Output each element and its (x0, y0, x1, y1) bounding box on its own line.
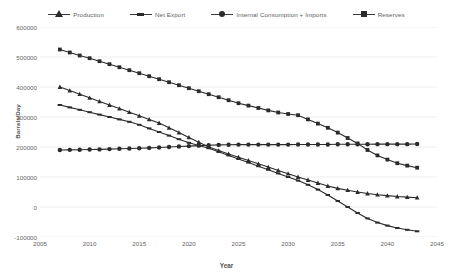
data-point (395, 161, 399, 165)
data-point (147, 74, 151, 78)
y-tick-label: 0 (34, 204, 37, 211)
data-point (236, 158, 240, 160)
data-point (127, 146, 131, 150)
y-axis-title: Barrels/Day (14, 92, 21, 152)
data-point (336, 131, 340, 135)
plot-area (40, 27, 437, 237)
data-point (167, 145, 171, 149)
data-point (415, 230, 419, 232)
data-point (286, 142, 290, 146)
series-line (60, 105, 417, 231)
data-point (316, 189, 320, 191)
data-point (385, 225, 389, 227)
data-point (247, 104, 251, 108)
x-tick-label: 2005 (33, 240, 47, 247)
data-point (197, 143, 201, 147)
data-point (345, 206, 349, 208)
legend-item-label: Net Export (155, 11, 185, 18)
data-point (167, 80, 171, 84)
data-point (207, 143, 211, 147)
data-point (326, 126, 330, 130)
legend-item-label: Production (73, 11, 104, 18)
legend-marker-icon (211, 10, 233, 19)
data-point (345, 142, 349, 146)
data-point (58, 148, 62, 152)
data-point (375, 222, 379, 224)
data-point (157, 145, 161, 149)
data-point (266, 109, 270, 113)
data-point (117, 147, 121, 151)
y-tick-label: 100000 (16, 174, 37, 181)
data-point (276, 142, 280, 146)
data-point (68, 106, 72, 108)
data-point (395, 142, 399, 146)
series-net-export (58, 104, 420, 232)
data-point (356, 142, 360, 146)
y-tick-label: 500000 (16, 54, 37, 61)
legend-item-internal-consumption-imports[interactable]: Internal Consumption + Imports (211, 10, 326, 19)
data-point (177, 144, 181, 148)
data-point (306, 142, 310, 146)
data-point (296, 180, 300, 182)
data-point (286, 112, 290, 116)
legend-item-label: Internal Consumption + Imports (236, 11, 326, 18)
legend-marker-icon (48, 10, 70, 19)
data-point (226, 154, 230, 156)
data-point (236, 142, 240, 146)
legend-marker-icon (353, 10, 375, 19)
data-point (97, 147, 101, 151)
data-point (78, 54, 82, 58)
data-point (365, 217, 369, 219)
data-point (107, 147, 111, 151)
data-point (107, 116, 111, 118)
data-point (405, 142, 409, 146)
data-point (256, 165, 260, 167)
data-point (237, 101, 241, 105)
data-point (316, 142, 320, 146)
data-point (336, 200, 340, 202)
data-point (207, 147, 211, 149)
series-line (60, 50, 417, 168)
x-tick-label: 2015 (132, 240, 146, 247)
legend-marker-icon (130, 10, 152, 19)
x-tick-label: 2020 (182, 240, 196, 247)
data-point (366, 148, 370, 152)
data-point (98, 59, 102, 63)
y-tick-label: 400000 (16, 84, 37, 91)
data-point (118, 65, 122, 69)
data-point (336, 142, 340, 146)
data-point (216, 143, 220, 147)
chart-svg (40, 27, 437, 237)
data-point (256, 106, 260, 110)
data-point (68, 148, 72, 152)
data-point (246, 142, 250, 146)
x-axis-title: Year (0, 262, 453, 269)
data-point (306, 184, 310, 186)
data-point (58, 104, 62, 106)
data-point (385, 142, 389, 146)
data-point (97, 114, 101, 116)
data-point (137, 71, 141, 75)
data-point (405, 229, 409, 231)
data-point (385, 158, 389, 162)
data-point (87, 111, 91, 113)
chart-legend: ProductionNet ExportInternal Consumption… (0, 6, 453, 22)
x-tick-label: 2010 (83, 240, 97, 247)
data-point (127, 121, 131, 123)
data-point (405, 164, 409, 168)
data-point (226, 143, 230, 147)
data-point (167, 135, 171, 137)
data-point (127, 68, 131, 72)
data-point (147, 146, 151, 150)
legend-item-net-export[interactable]: Net Export (130, 10, 185, 19)
data-point (177, 138, 181, 140)
data-point (256, 142, 260, 146)
data-point (415, 142, 419, 146)
legend-item-production[interactable]: Production (48, 10, 104, 19)
data-point (395, 227, 399, 229)
data-point (286, 176, 290, 178)
data-point (87, 147, 91, 151)
x-tick-label: 2035 (331, 240, 345, 247)
data-point (326, 142, 330, 146)
legend-item-reserves[interactable]: Reserves (353, 10, 405, 19)
